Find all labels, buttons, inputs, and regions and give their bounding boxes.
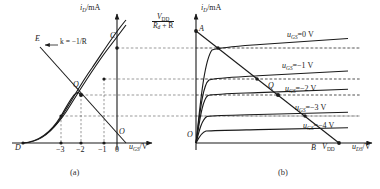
curve-label-ugs-m3-value: =−3 V — [306, 103, 327, 112]
panel-a-slope-label: k = −1/R — [60, 38, 87, 46]
panel-b-curve-label-ugs-m3: uGS=−3 V — [295, 104, 326, 112]
marker-b-ugsm1 — [255, 77, 258, 80]
fraction-denominator-subscript: d — [158, 24, 161, 30]
curve-label-ugs-m1-subscript: GS — [286, 65, 293, 71]
panel-b-x-axis-subscript: DS — [356, 146, 363, 152]
panel-a-y-axis-label: iD/mA — [80, 4, 100, 12]
marker-Q — [79, 93, 83, 97]
panel-b-vdd-subscript: DD — [327, 146, 335, 152]
marker-D — [21, 141, 24, 144]
panel-a-y-axis-subscript: D — [82, 7, 86, 13]
panel-a-tick-label-m3: −3 — [56, 145, 65, 154]
panel-a-point-C-label: C — [110, 32, 115, 40]
curve-label-ugs-m2-subscript: GS — [289, 88, 296, 94]
panel-b-dashed-guides — [196, 48, 360, 116]
figure-container: iD/mA uGS/V D O E C Q k = −1/R −3 −2 −1 … — [0, 0, 380, 189]
curve-label-ugs-m3-subscript: GS — [299, 107, 306, 113]
curve-label-ugs-m1-value: =−1 V — [293, 61, 314, 70]
panel-b-point-B-label: B — [311, 144, 316, 152]
panel-a-tick-label-0: 0 — [115, 145, 119, 154]
panel-b-x-axis-label: uDS/V — [352, 143, 371, 151]
panel-a-point-E-label: E — [35, 35, 40, 43]
fraction-denominator-rest: + R — [160, 21, 173, 30]
panel-b-graphics — [194, 14, 372, 150]
marker-b-Q — [276, 93, 280, 97]
marker-b-ugs0 — [216, 46, 219, 49]
marker-B — [337, 141, 341, 145]
fraction-numerator-subscript: DD — [162, 16, 170, 22]
marker-low — [59, 114, 62, 117]
panel-b-curve-ugs-m4 — [196, 128, 348, 143]
marker-A — [194, 29, 198, 33]
curve-label-ugs-m2-value: =−2 V — [296, 84, 317, 93]
panel-b-curve-label-ugs-m1: uGS=−1 V — [282, 62, 313, 70]
fraction-numerator-symbol: V — [157, 12, 162, 21]
panel-a-tick-label-m1: −1 — [98, 145, 107, 154]
panel-b-curve-label-ugs-m4: uGS=−4 V — [303, 122, 334, 130]
fraction-denominator: Rd + R — [152, 21, 174, 30]
marker-b-ugsm3 — [303, 114, 306, 117]
curve-label-ugs-m4-subscript: GS — [307, 125, 314, 131]
caption-a: (a) — [70, 167, 79, 177]
figure-graphics — [0, 0, 380, 189]
panel-b-y-axis-subscript: D — [203, 7, 207, 13]
caption-b: (b) — [278, 167, 288, 177]
marker-C — [115, 46, 119, 50]
panel-b-vdd-label: VDD — [322, 143, 335, 151]
panel-b-y-intercept-expression: VDD Rd + R — [152, 13, 174, 30]
curve-label-ugs-0-value: =0 V — [298, 30, 314, 39]
curve-label-ugs-0-subscript: GS — [291, 34, 298, 40]
panel-a-tick-label-m2: −2 — [76, 145, 85, 154]
panel-a-point-O-label: O — [119, 128, 125, 136]
fraction-numerator: VDD — [152, 13, 174, 21]
panel-b-x-axis-unit: /V — [363, 142, 371, 151]
panel-a-y-axis-unit: /mA — [86, 3, 100, 12]
panel-b-point-O-label: O — [187, 131, 193, 139]
panel-b-point-A-label: A — [199, 25, 204, 33]
panel-a-x-axis-subscript: GS — [133, 146, 140, 152]
curve-label-ugs-m4-value: =−4 V — [314, 121, 335, 130]
panel-a-point-Q-label: Q — [73, 81, 79, 89]
panel-b-y-axis-label: iD/mA — [201, 4, 221, 12]
marker-mid — [102, 77, 105, 80]
panel-b-curve-label-ugs-0: uGS=0 V — [287, 31, 314, 39]
panel-b-point-Q-label: Q — [268, 82, 274, 90]
panel-b-curve-label-ugs-m2: uGS=−2 V — [285, 85, 316, 93]
panel-b-y-axis-unit: /mA — [207, 3, 221, 12]
fraction-denominator-symbol: R — [153, 21, 158, 30]
panel-a-x-axis-unit: /V — [140, 142, 148, 151]
panel-a-x-axis-label: uGS/V — [129, 143, 148, 151]
panel-a-point-D-label: D — [15, 144, 21, 152]
